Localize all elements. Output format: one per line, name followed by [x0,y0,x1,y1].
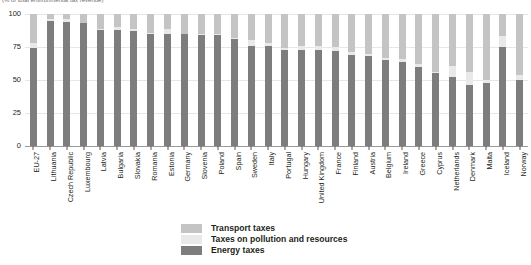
bar-segment-energy[interactable] [281,50,288,146]
stacked-bar[interactable] [499,14,506,146]
bar-segment-energy[interactable] [198,35,205,146]
bar-segment-transport[interactable] [80,14,87,23]
bar-column[interactable] [494,14,511,146]
bar-segment-transport[interactable] [483,14,490,80]
bar-segment-energy[interactable] [432,73,439,146]
bar-segment-energy[interactable] [348,55,355,146]
bar-column[interactable] [109,14,126,146]
bar-column[interactable] [176,14,193,146]
bar-segment-transport[interactable] [415,14,422,64]
bar-segment-energy[interactable] [97,30,104,146]
bar-column[interactable] [310,14,327,146]
bar-column[interactable] [59,14,76,146]
bar-segment-transport[interactable] [198,14,205,34]
bar-column[interactable] [461,14,478,146]
stacked-bar[interactable] [214,14,221,146]
bar-segment-pollution[interactable] [449,66,456,78]
stacked-bar[interactable] [198,14,205,146]
bar-segment-energy[interactable] [130,31,137,146]
bar-segment-transport[interactable] [181,14,188,34]
stacked-bar[interactable] [348,14,355,146]
stacked-bar[interactable] [181,14,188,146]
stacked-bar[interactable] [63,14,70,146]
stacked-bar[interactable] [147,14,154,146]
bar-column[interactable] [75,14,92,146]
legend-item[interactable]: Energy taxes [181,246,347,255]
bar-segment-pollution[interactable] [466,72,473,85]
bar-column[interactable] [327,14,344,146]
bar-column[interactable] [142,14,159,146]
bar-segment-energy[interactable] [466,85,473,146]
stacked-bar[interactable] [382,14,389,146]
bar-segment-transport[interactable] [114,14,121,27]
bar-segment-transport[interactable] [432,14,439,72]
bar-segment-transport[interactable] [164,14,171,29]
bar-segment-energy[interactable] [298,50,305,146]
bar-column[interactable] [126,14,143,146]
bar-column[interactable] [276,14,293,146]
stacked-bar[interactable] [248,14,255,146]
stacked-bar[interactable] [265,14,272,146]
bar-column[interactable] [193,14,210,146]
bar-segment-energy[interactable] [47,21,54,146]
stacked-bar[interactable] [114,14,121,146]
bar-column[interactable] [360,14,377,146]
bar-segment-energy[interactable] [315,50,322,146]
bar-column[interactable] [411,14,428,146]
bar-segment-transport[interactable] [315,14,322,46]
bar-segment-energy[interactable] [499,47,506,146]
bar-segment-pollution[interactable] [499,36,506,47]
bar-segment-energy[interactable] [114,30,121,146]
bar-column[interactable] [25,14,42,146]
bar-column[interactable] [159,14,176,146]
bar-segment-transport[interactable] [499,14,506,36]
stacked-bar[interactable] [30,14,37,146]
bar-column[interactable] [293,14,310,146]
stacked-bar[interactable] [231,14,238,146]
stacked-bar[interactable] [432,14,439,146]
bar-segment-transport[interactable] [130,14,137,29]
bar-column[interactable] [511,14,528,146]
stacked-bar[interactable] [298,14,305,146]
bar-segment-energy[interactable] [382,60,389,146]
bar-column[interactable] [226,14,243,146]
bar-segment-energy[interactable] [63,22,70,146]
bar-segment-energy[interactable] [415,67,422,146]
bar-segment-transport[interactable] [30,14,37,43]
bar-segment-transport[interactable] [231,14,238,38]
bar-column[interactable] [42,14,59,146]
bar-segment-energy[interactable] [164,34,171,146]
stacked-bar[interactable] [399,14,406,146]
bar-segment-energy[interactable] [516,80,523,146]
bar-segment-transport[interactable] [348,14,355,52]
bar-segment-transport[interactable] [516,14,523,75]
bar-segment-energy[interactable] [248,46,255,146]
bar-segment-energy[interactable] [265,46,272,146]
bar-column[interactable] [394,14,411,146]
stacked-bar[interactable] [466,14,473,146]
bar-segment-transport[interactable] [265,14,272,43]
bar-segment-transport[interactable] [332,14,339,47]
legend-item[interactable]: Taxes on pollution and resources [181,235,347,244]
stacked-bar[interactable] [281,14,288,146]
stacked-bar[interactable] [332,14,339,146]
bar-segment-transport[interactable] [248,14,255,40]
bar-segment-energy[interactable] [231,39,238,146]
stacked-bar[interactable] [80,14,87,146]
stacked-bar[interactable] [47,14,54,146]
bar-column[interactable] [478,14,495,146]
bar-segment-transport[interactable] [97,14,104,29]
bar-segment-transport[interactable] [147,14,154,32]
stacked-bar[interactable] [130,14,137,146]
bar-segment-energy[interactable] [483,83,490,146]
bar-segment-energy[interactable] [147,34,154,146]
bar-segment-transport[interactable] [466,14,473,72]
stacked-bar[interactable] [449,14,456,146]
bar-column[interactable] [377,14,394,146]
stacked-bar[interactable] [97,14,104,146]
stacked-bar[interactable] [315,14,322,146]
legend-item[interactable]: Transport taxes [181,224,347,233]
bar-segment-energy[interactable] [181,34,188,146]
stacked-bar[interactable] [516,14,523,146]
stacked-bar[interactable] [415,14,422,146]
